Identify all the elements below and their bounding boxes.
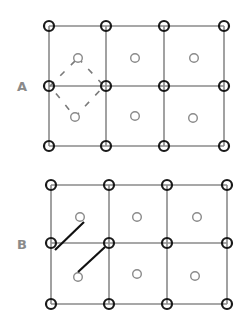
panel-a: A [17,21,229,151]
center-node [131,54,140,63]
center-node [133,270,142,279]
center-node [191,272,200,281]
center-node [76,213,85,222]
bond-line [55,222,84,250]
center-node [131,112,140,121]
dashed-diamond [50,58,104,117]
center-node [190,54,199,63]
center-node [133,213,142,222]
center-node [74,54,83,63]
panel-label: B [17,237,27,252]
panel-b: B [17,180,232,309]
bond-line [78,247,105,272]
center-node [189,114,198,123]
lattice-diagram: A B [0,0,246,322]
center-node [193,213,202,222]
center-node [74,273,83,282]
center-node [71,113,80,122]
panel-label: A [17,79,27,94]
